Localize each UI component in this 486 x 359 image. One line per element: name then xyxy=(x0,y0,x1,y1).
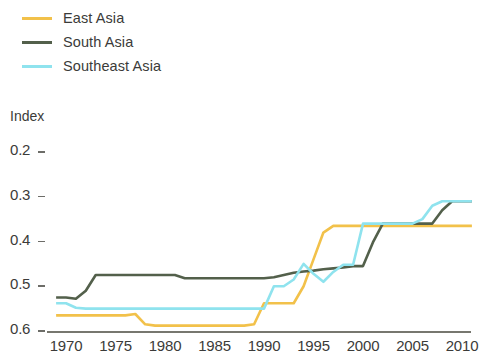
x-tick-label: 2010 xyxy=(446,337,479,354)
series-line-south-asia xyxy=(56,201,472,299)
chart-figure: East Asia South Asia Southeast Asia Inde… xyxy=(0,0,486,359)
x-tick-label: 2000 xyxy=(347,337,380,354)
x-tick-label: 1970 xyxy=(50,337,83,354)
x-tick-label: 1985 xyxy=(198,337,231,354)
x-tick-label: 1995 xyxy=(297,337,330,354)
x-tick-label: 1990 xyxy=(248,337,281,354)
x-tick-label: 1980 xyxy=(149,337,182,354)
x-tick-label: 1975 xyxy=(99,337,132,354)
series-line-southeast-asia xyxy=(56,201,472,308)
series-lines xyxy=(0,0,486,359)
plot-area xyxy=(0,0,486,359)
x-axis-line xyxy=(47,331,471,333)
x-tick-label: 2005 xyxy=(396,337,429,354)
